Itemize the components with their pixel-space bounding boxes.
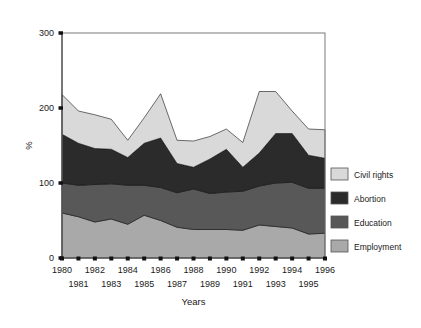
x-tick-mark — [126, 257, 130, 261]
y-tick-label: 300 — [39, 28, 54, 38]
legend-label-employment: Employment — [354, 242, 402, 252]
legend-swatch-education[interactable] — [331, 216, 348, 228]
y-tick-label: 0 — [49, 253, 54, 263]
legend-swatch-abortion[interactable] — [331, 192, 348, 204]
legend-label-civil-rights: Civil rights — [354, 170, 393, 180]
legend-swatch-civil-rights[interactable] — [331, 168, 348, 180]
x-tick-label: 1986 — [151, 265, 171, 275]
x-tick-mark — [323, 257, 327, 261]
x-tick-label: 1985 — [134, 279, 154, 289]
y-tick-mark — [59, 31, 64, 35]
x-tick-label: 1990 — [216, 265, 236, 275]
x-tick-label: 1996 — [315, 265, 335, 275]
x-tick-label: 1992 — [249, 265, 269, 275]
x-tick-mark — [109, 257, 113, 261]
x-tick-label: 1991 — [233, 279, 253, 289]
legend-swatch-employment[interactable] — [331, 240, 348, 252]
x-tick-label: 1989 — [200, 279, 220, 289]
x-tick-mark — [241, 257, 245, 261]
x-tick-mark — [274, 257, 278, 261]
x-tick-mark — [175, 257, 179, 261]
x-tick-label: 1983 — [101, 279, 121, 289]
stacked-area-chart: 0100200300198019811982198319841985198619… — [0, 0, 421, 328]
x-tick-label: 1987 — [167, 279, 187, 289]
x-tick-mark — [142, 257, 146, 261]
x-tick-mark — [192, 257, 196, 261]
y-tick-mark — [59, 181, 64, 185]
x-tick-label: 1995 — [299, 279, 319, 289]
chart-canvas: 0100200300198019811982198319841985198619… — [0, 0, 421, 328]
legend-label-education: Education — [354, 218, 392, 228]
x-tick-label: 1988 — [183, 265, 203, 275]
x-tick-label: 1993 — [266, 279, 286, 289]
x-axis-title: Years — [182, 296, 206, 307]
y-axis-title: % — [23, 141, 34, 150]
x-tick-mark — [290, 257, 294, 261]
x-tick-mark — [93, 257, 97, 261]
x-tick-mark — [257, 257, 261, 261]
y-tick-label: 100 — [39, 178, 54, 188]
x-tick-label: 1984 — [118, 265, 138, 275]
x-tick-mark — [76, 257, 80, 261]
x-tick-mark — [159, 257, 163, 261]
x-tick-mark — [208, 257, 212, 261]
legend-label-abortion: Abortion — [354, 194, 386, 204]
x-tick-label: 1982 — [85, 265, 105, 275]
x-tick-mark — [60, 257, 64, 261]
x-tick-mark — [224, 257, 228, 261]
x-tick-label: 1981 — [68, 279, 88, 289]
x-tick-label: 1994 — [282, 265, 302, 275]
x-tick-mark — [307, 257, 311, 261]
y-tick-mark — [59, 106, 64, 110]
x-tick-label: 1980 — [52, 265, 72, 275]
y-tick-label: 200 — [39, 103, 54, 113]
